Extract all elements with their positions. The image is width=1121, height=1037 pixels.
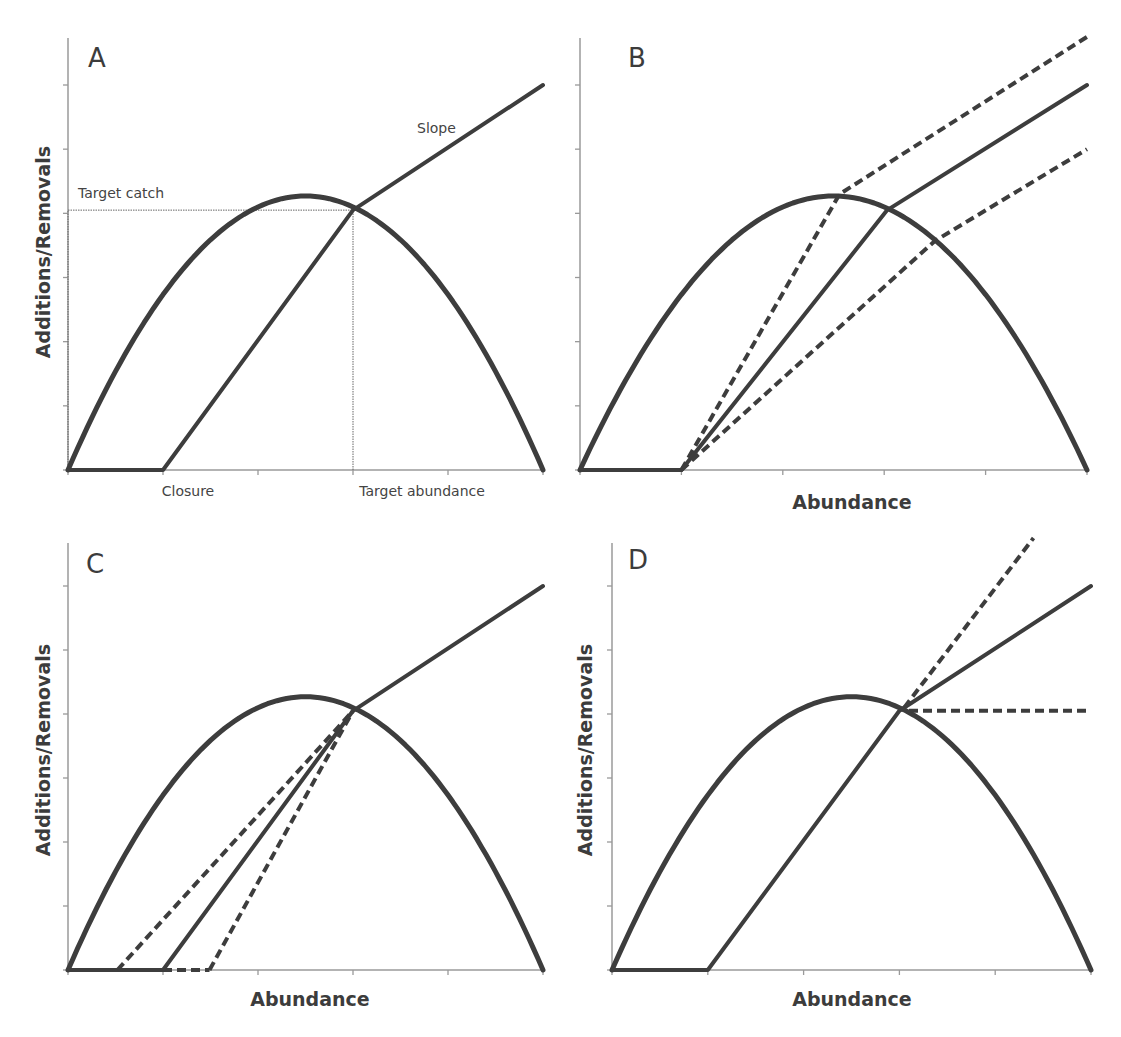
hcr-base-line xyxy=(681,85,1087,470)
x-tick-label-target-abundance: Target abundance xyxy=(358,483,485,499)
y-axis-title-d: Additions/Removals xyxy=(574,644,596,856)
panel-d: D Additions/Removals Abundance xyxy=(574,538,1092,1010)
x-axis-title-c: Abundance xyxy=(250,988,369,1010)
production-additions-line xyxy=(612,697,1091,970)
panel-a: A Additions/Removals Closure Target abun… xyxy=(32,38,544,499)
hcr-base-line xyxy=(163,586,543,970)
panel-letter-b: B xyxy=(628,43,646,73)
figure: A Additions/Removals Closure Target abun… xyxy=(0,0,1121,1037)
production-additions-line xyxy=(68,196,543,470)
x-axis-title-b: Abundance xyxy=(792,491,911,513)
plot-area xyxy=(575,37,1088,475)
panel-letter-a: A xyxy=(88,43,106,73)
hcr-higher-target-catch-line xyxy=(681,37,1087,470)
annotation-target-catch: Target catch xyxy=(77,185,164,201)
hcr-higher-closure-line xyxy=(210,711,354,970)
panel-c: C Additions/Removals Abundance xyxy=(32,543,544,1010)
x-tick-label-closure: Closure xyxy=(162,483,214,499)
plot-area xyxy=(607,538,1092,975)
hcr-lower-target-catch-line xyxy=(681,149,1087,470)
y-axis-title-a: Additions/Removals xyxy=(32,146,54,358)
x-axis-title-d: Abundance xyxy=(792,988,911,1010)
hcr-steeper-slope-line xyxy=(904,538,1033,708)
annotation-slope: Slope xyxy=(417,120,456,136)
y-axis-title-c: Additions/Removals xyxy=(32,644,54,856)
plot-area xyxy=(63,543,544,975)
panel-b: B Abundance xyxy=(575,37,1088,513)
production-additions-line xyxy=(68,697,543,970)
plot-area xyxy=(63,38,544,475)
panel-letter-c: C xyxy=(86,549,104,579)
hcr-base-line xyxy=(612,586,1091,970)
hcr-lower-closure-line xyxy=(117,711,353,970)
panel-letter-d: D xyxy=(628,545,648,575)
harvest-control-rule-line xyxy=(68,85,543,470)
